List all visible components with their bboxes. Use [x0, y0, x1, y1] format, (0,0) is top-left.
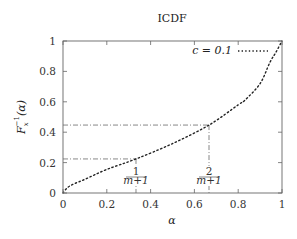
fraction-denominator: m+1: [196, 174, 221, 186]
x-tick-label: 0.2: [98, 198, 115, 210]
y-tick-label: 1: [49, 35, 56, 47]
y-tick-label: 0.6: [39, 96, 56, 108]
y-tick-label: 0.8: [39, 65, 56, 77]
svg-text:Fx−1(α): Fx−1(α): [13, 100, 30, 135]
y-tick-label: 0: [49, 187, 56, 199]
icdf-chart: ICDF 00.20.40.60.81 00.20.40.60.81 1m+12…: [0, 0, 297, 239]
plot-frame: [63, 41, 282, 193]
data-series-curve: [63, 41, 282, 193]
legend: c = 0.1: [192, 44, 268, 57]
legend-label: c = 0.1: [192, 44, 232, 57]
x-axis-label: α: [168, 214, 176, 227]
x-tick-label: 1: [279, 198, 286, 210]
x-tick-label: 0.8: [230, 198, 247, 210]
x-tick-label: 0.6: [186, 198, 203, 210]
fraction-denominator: m+1: [123, 174, 148, 186]
y-axis-ticks: 00.20.40.60.81: [39, 35, 282, 199]
chart-title: ICDF: [157, 12, 187, 25]
x-tick-label: 0: [60, 198, 67, 210]
fraction-annotations: 1m+12m+1: [123, 165, 221, 186]
y-axis-label: Fx−1(α): [13, 100, 30, 135]
y-tick-label: 0.4: [39, 126, 56, 138]
x-axis-ticks: 00.20.40.60.81: [60, 41, 286, 210]
x-tick-label: 0.4: [142, 198, 159, 210]
y-tick-label: 0.2: [39, 157, 56, 169]
